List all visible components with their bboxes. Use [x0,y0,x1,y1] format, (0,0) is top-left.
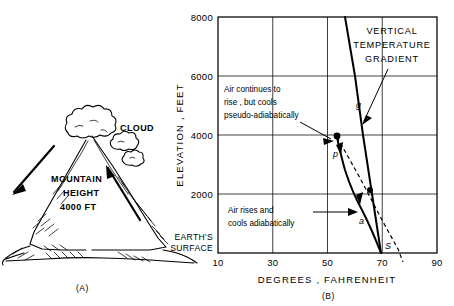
cloud-icon [65,105,144,166]
panel-b-caption: (B) [322,291,335,301]
xtick-30: 30 [267,257,278,268]
gradient-title-line1: VERTICAL [366,26,417,36]
mountain-shape [2,136,197,265]
ytick-surface-line2: SURFACE [170,243,213,253]
panel-b-chart: 10 30 50 70 90 8000 6000 4000 2000 EARTH… [170,12,442,301]
gradient-title-group: VERTICAL TEMPERATURE GRADIENT [353,26,431,125]
gradient-title-leader [364,69,388,121]
xtick-10: 10 [212,257,223,268]
panel-a-illustration: CLOUD MOUNTAIN HEIGHT 4000 FT (A) [2,105,197,293]
label-s: S [385,241,391,251]
gradient-title-line2: TEMPERATURE [353,40,431,50]
mountain-height-line1: MOUNTAIN [51,174,102,184]
figure-container: CLOUD MOUNTAIN HEIGHT 4000 FT (A) 10 30 … [0,0,454,306]
xtick-50: 50 [322,257,333,268]
annotation-pseudo-adiabatic: Air continues to rise , but cools pseudo… [224,85,334,145]
annotation-bottom-arrowhead [348,208,358,216]
cloud-label: CLOUD [120,123,154,133]
downslope-arrow-icon [12,146,54,195]
annotation-bottom-line1: Air rises and [228,206,274,215]
label-p: p [332,149,338,159]
ytick-4000: 4000 [191,130,213,141]
gradient-title-arrowhead [362,115,372,125]
x-axis-ticks: 10 30 50 70 90 [212,257,442,268]
ytick-8000: 8000 [191,12,213,23]
annotation-adiabatic: Air rises and cools adiabatically [228,206,358,228]
annotation-top-line3: pseudo-adiabatically [224,111,300,120]
label-g: g [356,100,361,110]
point-p-marker [334,133,341,140]
x-axis-title: DEGREES , FAHRENHEIT [258,274,397,285]
annotation-top-line2: rise , but cools [224,98,277,107]
annotation-bottom-line2: cools adiabatically [228,219,295,228]
gradient-title-line3: GRADIENT [365,54,419,64]
annotation-top-leader [300,122,331,139]
mountain-height-line2: HEIGHT [63,188,100,198]
mountain-height-line3: 4000 FT [60,202,96,212]
ytick-6000: 6000 [191,71,213,82]
figure-svg: CLOUD MOUNTAIN HEIGHT 4000 FT (A) 10 30 … [0,0,454,306]
y-axis-title: ELEVATION , FEET [174,83,185,186]
xtick-90: 90 [431,257,442,268]
annotation-top-arrowhead [323,138,334,145]
annotation-top-line1: Air continues to [224,85,281,94]
label-a: a [359,216,364,226]
gradient-intersection-marker [367,187,373,193]
xtick-70: 70 [377,257,388,268]
series-pseudo-adiabat [337,137,403,262]
panel-a-caption: (A) [76,283,89,293]
ytick-surface-line1: EARTH'S [175,232,213,242]
ytick-2000: 2000 [191,189,213,200]
upslope-arrow-icon [106,165,140,220]
